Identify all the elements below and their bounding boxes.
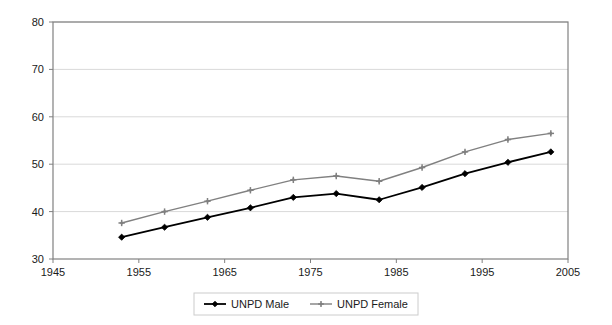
y-axis-tick-label: 80 xyxy=(32,16,44,28)
y-axis-tick-label: 60 xyxy=(32,111,44,123)
x-axis-tick-label: 1955 xyxy=(127,266,151,278)
y-axis-tick-label: 50 xyxy=(32,158,44,170)
chart-legend: UNPD MaleUNPD Female xyxy=(194,293,418,315)
x-axis-tick-label: 1945 xyxy=(41,266,65,278)
x-axis-tick-label: 1985 xyxy=(384,266,408,278)
legend-item-label: UNPD Female xyxy=(337,298,408,310)
y-axis-tick-label: 70 xyxy=(32,63,44,75)
x-axis-tick-label: 2005 xyxy=(556,266,580,278)
y-axis-tick-label: 40 xyxy=(32,206,44,218)
y-axis-tick-label: 30 xyxy=(32,253,44,265)
line-chart: 304050607080 194519551965197519851995200… xyxy=(0,0,612,325)
chart-container: 304050607080 194519551965197519851995200… xyxy=(0,0,612,325)
x-axis-tick-label: 1975 xyxy=(298,266,322,278)
x-axis-tick-label: 1965 xyxy=(212,266,236,278)
legend-item-label: UNPD Male xyxy=(231,298,289,310)
x-axis-tick-label: 1995 xyxy=(470,266,494,278)
